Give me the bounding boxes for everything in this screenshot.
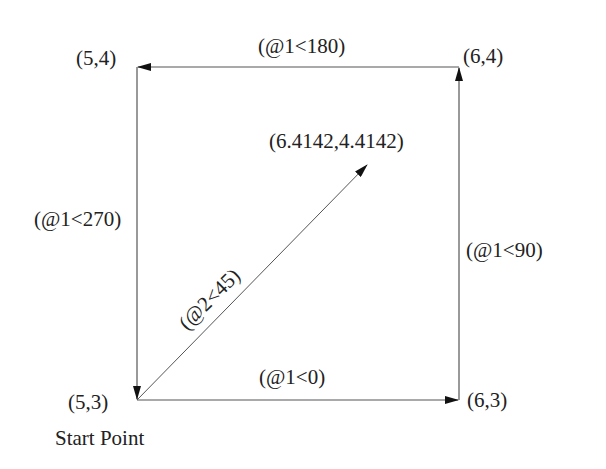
start-point-label: Start Point (55, 428, 144, 449)
point-label-6-4: (6,4) (463, 46, 503, 67)
segment-label-0: (@1<0) (259, 367, 325, 388)
point-label-diagonal-end: (6.4142,4.4142) (269, 131, 404, 152)
diagram-canvas: (5,4) (6,4) (@1<180) (6.4142,4.4142) (@1… (0, 0, 606, 469)
segment-label-270: (@1<270) (34, 209, 121, 230)
point-label-5-3: (5,3) (68, 392, 108, 413)
point-label-6-3: (6,3) (467, 390, 507, 411)
segment-label-90: (@1<90) (466, 240, 543, 261)
segment-label-180: (@1<180) (258, 36, 345, 57)
segment-45deg (137, 165, 367, 400)
point-label-5-4: (5,4) (76, 48, 116, 69)
